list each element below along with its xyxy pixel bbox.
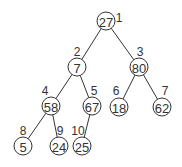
- tree-node: 58: [14, 124, 32, 155]
- node-value: 58: [44, 100, 58, 115]
- node-index-label: 3: [137, 45, 144, 59]
- node-value: 25: [75, 140, 89, 155]
- tree-node: 271: [97, 11, 123, 30]
- node-index-label: 7: [162, 84, 169, 98]
- node-value: 24: [52, 140, 66, 155]
- node-value: 18: [112, 101, 126, 116]
- tree-edge: [56, 74, 72, 98]
- node-value: 7: [73, 61, 80, 76]
- node-index-label: 6: [113, 84, 120, 98]
- tree-edge: [28, 113, 46, 138]
- tree-edge: [111, 28, 134, 59]
- tree-edge: [84, 115, 90, 138]
- binary-tree-diagram: 27172803584675186627582492510: [0, 0, 182, 167]
- tree-nodes: 27172803584675186627582492510: [14, 11, 171, 155]
- tree-node: 249: [50, 124, 68, 155]
- node-index-label: 4: [42, 84, 49, 98]
- tree-node: 186: [110, 84, 128, 116]
- node-value: 27: [99, 15, 113, 30]
- tree-edge: [123, 75, 135, 99]
- tree-edge: [82, 29, 101, 60]
- tree-node: 803: [130, 45, 148, 76]
- tree-node: 584: [42, 84, 60, 115]
- tree-edge: [143, 75, 157, 99]
- tree-node: 72: [68, 45, 86, 76]
- node-value: 80: [132, 61, 146, 76]
- node-index-label: 1: [116, 11, 123, 25]
- node-index-label: 10: [71, 124, 85, 138]
- tree-node: 2510: [71, 124, 91, 155]
- node-value: 62: [155, 101, 169, 116]
- node-index-label: 8: [20, 124, 27, 138]
- node-value: 5: [19, 140, 26, 155]
- node-index-label: 2: [74, 45, 81, 59]
- node-index-label: 5: [91, 84, 98, 98]
- node-index-label: 9: [57, 124, 64, 138]
- tree-edge: [80, 75, 89, 97]
- node-value: 67: [85, 100, 99, 115]
- tree-node: 627: [153, 84, 171, 116]
